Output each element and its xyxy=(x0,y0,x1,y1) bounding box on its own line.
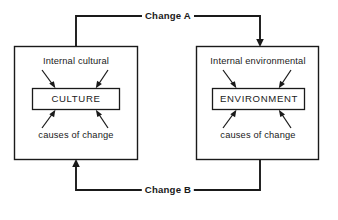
environment-node-label: ENVIRONMENT xyxy=(220,94,298,104)
environment-internal-causes-label: Internal environmental xyxy=(210,57,305,66)
connector-label-change-a: Change A xyxy=(142,11,194,21)
environment-external-causes-label: causes of change xyxy=(220,131,295,140)
diagram-canvas: Change A Change B Internal cultural CULT… xyxy=(0,0,338,220)
culture-external-causes-label: causes of change xyxy=(38,131,113,140)
culture-node-label: CULTURE xyxy=(51,94,100,104)
culture-internal-causes-label: Internal cultural xyxy=(43,57,109,66)
connector-label-change-b: Change B xyxy=(142,185,194,195)
